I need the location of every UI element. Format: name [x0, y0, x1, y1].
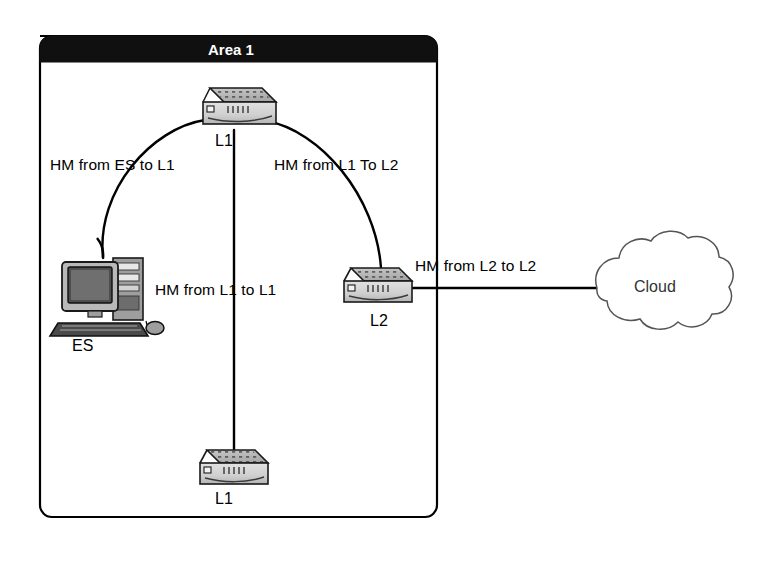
- node-label-l1-bottom: L1: [215, 490, 233, 508]
- network-diagram: Area 1 L1 ES L2 L1 Cloud HM from ES to L…: [0, 0, 761, 569]
- link-label-l1-to-l2: HM from L1 To L2: [274, 156, 399, 174]
- node-label-es: ES: [72, 337, 93, 355]
- node-label-cloud: Cloud: [634, 278, 676, 296]
- area-1-title: Area 1: [208, 41, 254, 58]
- link-label-l1-to-l1: HM from L1 to L1: [155, 281, 276, 299]
- node-label-l2: L2: [370, 312, 388, 330]
- link-label-es-to-l1: HM from ES to L1: [50, 156, 175, 174]
- node-label-l1-top: L1: [215, 132, 233, 150]
- link-label-l2-to-cloud: HM from L2 to L2: [415, 257, 536, 275]
